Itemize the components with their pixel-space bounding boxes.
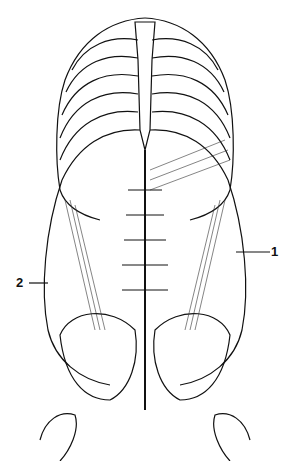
torso-drawing — [0, 0, 291, 461]
label-1: 1 — [271, 244, 278, 259]
label-2: 2 — [16, 275, 23, 290]
